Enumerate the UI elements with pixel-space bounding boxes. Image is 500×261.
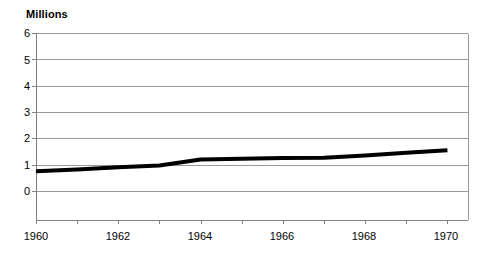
line-chart: Millions 6 5 4 3 2 1 0 1960 1962 1964 19… — [0, 0, 500, 261]
plot-frame — [36, 34, 469, 221]
tick-marks — [32, 34, 448, 225]
plot-area — [0, 0, 500, 261]
axis-lines — [36, 33, 468, 221]
data-series-line — [36, 150, 447, 171]
